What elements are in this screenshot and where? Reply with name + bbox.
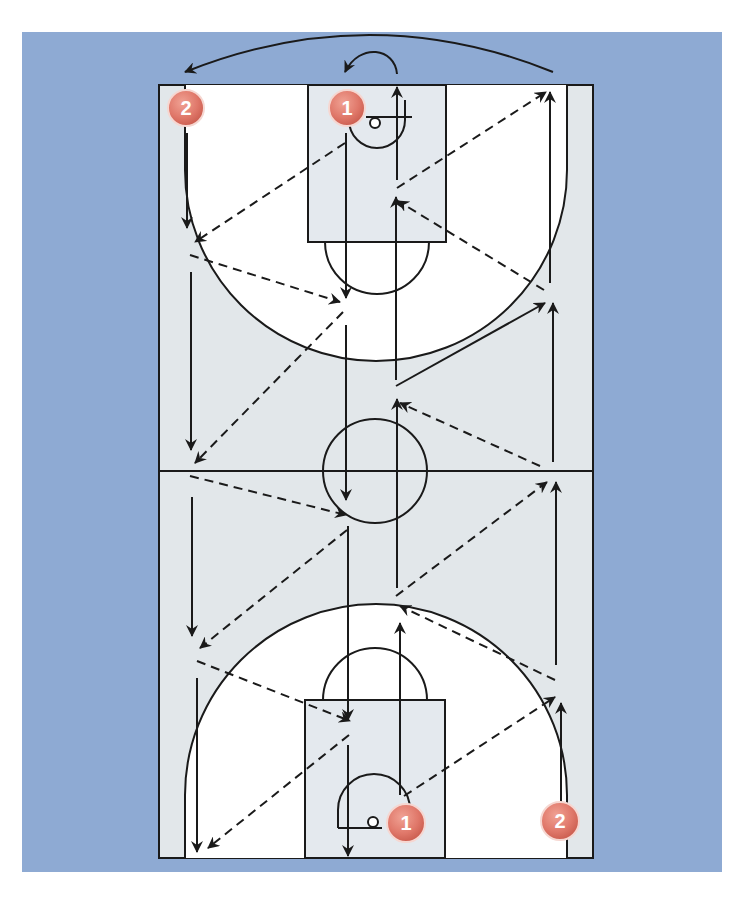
player-badge-2-bottom: 2 xyxy=(541,802,579,840)
basketball-court-diagram: 2 1 1 2 xyxy=(0,0,749,899)
svg-text:1: 1 xyxy=(400,812,411,834)
rotation-arrow-long xyxy=(185,35,553,72)
svg-text:2: 2 xyxy=(180,97,191,119)
hoop-top-icon xyxy=(370,118,380,128)
key-bottom xyxy=(305,700,445,858)
rotation-arrow-short xyxy=(345,52,397,74)
svg-text:1: 1 xyxy=(341,97,352,119)
player-badge-1-top: 1 xyxy=(329,90,365,126)
svg-text:2: 2 xyxy=(554,810,565,832)
player-badge-1-bottom: 1 xyxy=(387,804,425,842)
hoop-bottom-icon xyxy=(368,817,378,827)
player-badge-2-top: 2 xyxy=(168,90,204,126)
